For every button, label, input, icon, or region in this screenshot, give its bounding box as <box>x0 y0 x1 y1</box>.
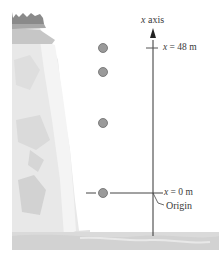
ball-icon <box>99 44 108 53</box>
origin-leader <box>153 193 164 205</box>
ball-icon <box>99 68 108 77</box>
ball-positions <box>99 44 108 198</box>
cliff-icon <box>12 12 90 250</box>
axis-label-text: axis <box>145 14 164 25</box>
cliff-illustration <box>0 0 219 258</box>
marker-value: = 48 m <box>167 42 196 52</box>
ball-icon <box>99 189 108 198</box>
marker-value: = 0 m <box>168 187 193 197</box>
marker-48m-label: x = 48 m <box>163 43 197 53</box>
origin-label: Origin <box>166 201 192 211</box>
ball-icon <box>99 119 108 128</box>
marker-0m-label: x = 0 m <box>164 188 193 198</box>
falling-ball-diagram: x axis x = 48 m x = 0 m Origin <box>0 0 219 258</box>
axis-arrow-icon <box>150 28 156 38</box>
axis-label: x axis <box>141 15 164 25</box>
